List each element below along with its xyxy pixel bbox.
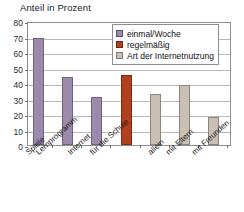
y-axis-tick [25,39,28,40]
x-axis-tick [110,145,111,148]
y-axis-tick-label: 40 [14,80,23,90]
y-axis-tick [25,85,28,86]
legend-item: Art der Internetnutzung [116,50,214,61]
y-axis-tick-label: 0 [18,142,23,152]
y-axis-tick-label: 70 [14,34,23,44]
chart-title: Anteil in Prozent [20,2,91,13]
legend-item: einmal/Woche [116,28,214,39]
gridline [28,70,230,71]
y-axis-tick-label: 10 [14,127,23,137]
y-axis-tick-label: 60 [14,49,23,59]
y-axis-tick [25,54,28,55]
chart-legend: einmal/WocheregelmäßigArt der Internetnu… [112,24,219,65]
legend-item: regelmäßig [116,39,214,50]
y-axis-tick-label: 30 [14,96,23,106]
x-axis-tick [227,145,228,148]
y-axis-tick-label: 50 [14,65,23,75]
y-axis-tick [25,116,28,117]
legend-swatch-icon [116,41,123,48]
legend-item-label: Art der Internetnutzung [127,51,214,61]
legend-item-label: einmal/Woche [127,29,181,39]
y-axis-tick-label: 80 [14,18,23,28]
x-axis-tick [140,145,141,148]
bar-chart: Anteil in Prozent 01020304050607080 Spie… [0,0,244,212]
bar [33,38,44,145]
y-axis-tick [25,132,28,133]
y-axis-tick-label: 20 [14,111,23,121]
y-axis-tick [25,70,28,71]
legend-swatch-icon [116,30,123,37]
legend-swatch-icon [116,52,123,59]
y-axis-tick [25,23,28,24]
legend-item-label: regelmäßig [127,40,170,50]
bar [121,75,132,145]
y-axis-tick [25,101,28,102]
